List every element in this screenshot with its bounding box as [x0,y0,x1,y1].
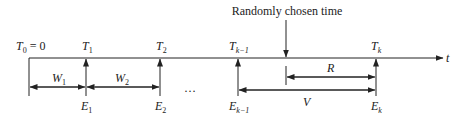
ellipsis: … [184,81,196,95]
origin-label: T0 = 0 [16,39,45,55]
Tk-1-label: Tk−1 [229,39,249,55]
E1-label: E1 [80,99,92,115]
W2-label: W2 [115,71,129,87]
Ek-1-label: Ek−1 [228,99,249,115]
T1-label: T1 [82,39,93,55]
V-label: V [303,95,312,109]
E2-label: E2 [154,99,166,115]
Ek-label: Ek [370,99,382,115]
W1-label: W1 [52,71,66,87]
renewal-process-diagram: t T0 = 0 T1 E1 T2 E2 W1 W2 … Tk−1 Ek−1 R… [0,0,453,118]
T2-label: T2 [156,39,167,55]
random-time-label: Randomly chosen time [232,4,343,18]
Tk-label: Tk [371,39,382,55]
R-label: R [326,61,335,75]
axis-label-t: t [446,51,450,65]
